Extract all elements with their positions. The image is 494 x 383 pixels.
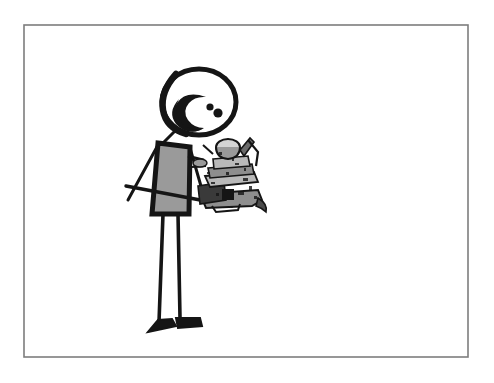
head-group (162, 69, 236, 135)
eye-upper-dot (206, 103, 213, 110)
torso (152, 143, 190, 214)
eye-lower-dot (213, 108, 222, 117)
drawing-artwork (0, 0, 494, 383)
illustration-canvas: Stick figure carrying a cluttered tray (0, 0, 494, 383)
right-foot (176, 318, 202, 328)
side-box-shadow (222, 189, 234, 200)
utensil-bowl (193, 159, 207, 167)
right-leg (178, 214, 180, 318)
